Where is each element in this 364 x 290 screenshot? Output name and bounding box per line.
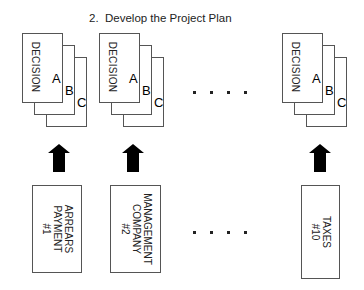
ellipsis-top [193, 91, 253, 95]
input-line: ARREARS [63, 205, 74, 253]
option-b-label: B [65, 83, 74, 98]
decision-stack-10: DECISION A B C [282, 33, 352, 129]
input-box-taxes: TAXES #10 [301, 185, 340, 279]
input-line: PAYMENT [52, 205, 63, 253]
option-c-label: C [77, 95, 86, 110]
option-c-label: C [154, 95, 163, 110]
option-a-label: A [52, 71, 61, 86]
decision-label: DECISION [24, 37, 46, 97]
up-arrow-icon [48, 144, 70, 172]
decision-label: DECISION [284, 37, 306, 97]
ellipsis-bottom [193, 231, 253, 235]
input-box-arrears-payment: ARREARS PAYMENT #1 [32, 185, 82, 273]
input-line: #10 [310, 216, 321, 248]
option-c-label: C [337, 95, 346, 110]
input-line: #2 [119, 193, 130, 265]
input-box-management-company: MANAGEMENT COMPANY #2 [110, 185, 161, 273]
input-line: #1 [41, 205, 52, 253]
decision-label: DECISION [101, 37, 123, 97]
option-a-label: A [129, 71, 138, 86]
option-a-label: A [312, 71, 321, 86]
input-line: COMPANY [130, 193, 141, 265]
up-arrow-icon [122, 144, 144, 172]
decision-stack-1: DECISION A B C [22, 33, 92, 129]
option-b-label: B [325, 83, 334, 98]
up-arrow-icon [309, 144, 331, 172]
decision-stack-2: DECISION A B C [99, 33, 169, 129]
diagram-title: 2. Develop the Project Plan [89, 12, 232, 24]
option-b-label: B [142, 83, 151, 98]
input-line: MANAGEMENT [141, 193, 152, 265]
input-line: TAXES [321, 216, 332, 248]
